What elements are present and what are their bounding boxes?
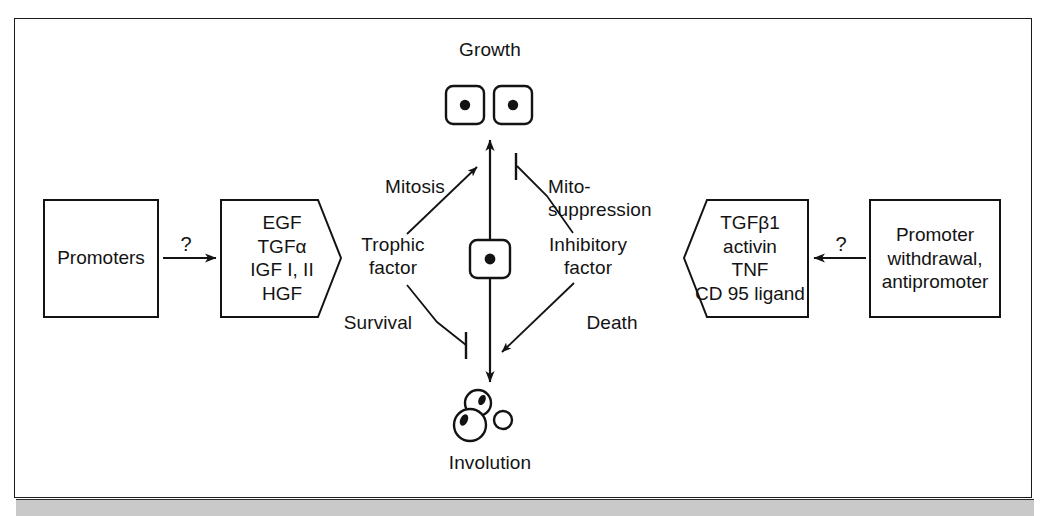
mitosis-label: Mitosis xyxy=(385,175,445,198)
inhibitory-factor-label: Inhibitory factor xyxy=(528,233,648,279)
promoters-box-text: Promoters xyxy=(44,246,158,270)
promoter-withdrawal-text: Promoter withdrawal, antipromoter xyxy=(867,223,1003,294)
right-question-mark: ? xyxy=(835,233,846,256)
death-label: Death xyxy=(586,311,637,334)
death-arrow xyxy=(502,283,574,352)
survival-label: Survival xyxy=(344,311,412,334)
figure-page: Growth Involution Trophic factor Inhibit… xyxy=(0,0,1046,516)
inhibitory-factors-text: TGFβ1 activin TNF CD 95 ligand xyxy=(685,211,815,305)
central-cell xyxy=(470,240,510,278)
growth-label: Growth xyxy=(459,38,521,61)
growth-cell-right xyxy=(494,86,532,124)
trophic-factor-label: Trophic factor xyxy=(338,233,448,279)
left-question-mark: ? xyxy=(180,233,191,256)
involution-bodies xyxy=(454,390,512,441)
survival-inhibitor xyxy=(407,285,466,359)
growth-factors-text: EGF TGFα IGF I, II HGF xyxy=(227,211,337,305)
growth-cell-left xyxy=(446,86,484,124)
mito-suppression-label: Mito- suppression xyxy=(548,175,678,221)
involution-label: Involution xyxy=(449,451,531,474)
